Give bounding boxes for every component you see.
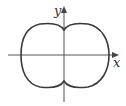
y-axis-label: y xyxy=(53,3,62,18)
polar-plot: y x xyxy=(0,0,126,106)
y-axis xyxy=(61,6,67,102)
x-axis-label: x xyxy=(113,55,121,70)
y-axis-arrow-icon xyxy=(61,6,67,13)
